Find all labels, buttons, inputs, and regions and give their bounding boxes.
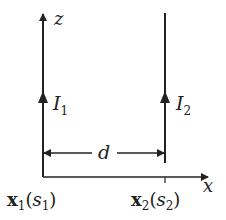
x-axis-label: x [203, 175, 213, 196]
current-label-1: I1 [52, 92, 68, 118]
position-label-1: x1(s1) [7, 189, 56, 213]
current-arrow-icon-2 [160, 91, 170, 103]
current-arrow-icon-1 [38, 91, 48, 103]
parallel-wires-diagram: z I1 I2 d x x1(s1) x2(s2) [0, 0, 226, 220]
position-label-2: x2(s2) [131, 189, 180, 213]
distance-label: d [98, 141, 110, 163]
z-axis-label: z [53, 8, 64, 29]
current-label-2: I2 [175, 92, 191, 118]
